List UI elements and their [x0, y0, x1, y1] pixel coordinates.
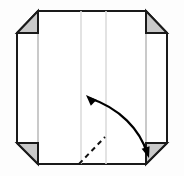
- diagram-canvas: [0, 0, 184, 176]
- paper-sheet-outline: [17, 11, 167, 164]
- origami-fold-diagram: [0, 0, 184, 176]
